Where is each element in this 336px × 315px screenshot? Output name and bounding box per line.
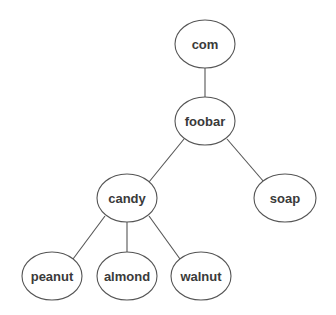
- node-walnut-label: walnut: [179, 269, 222, 284]
- nodes: com foobar candy soap peanut almond waln…: [22, 20, 316, 300]
- node-foobar-label: foobar: [185, 114, 225, 129]
- node-com[interactable]: com: [175, 20, 235, 68]
- edge-foobar-soap: [227, 139, 264, 182]
- node-soap-label: soap: [270, 191, 300, 206]
- tree-diagram: com foobar candy soap peanut almond waln…: [0, 0, 336, 315]
- node-soap[interactable]: soap: [254, 174, 316, 222]
- node-foobar[interactable]: foobar: [175, 97, 235, 145]
- node-candy-label: candy: [108, 191, 146, 206]
- edge-candy-peanut: [73, 216, 105, 259]
- edge-foobar-candy: [149, 139, 184, 182]
- edge-candy-walnut: [149, 216, 180, 259]
- node-candy[interactable]: candy: [97, 174, 157, 222]
- node-com-label: com: [192, 37, 219, 52]
- node-peanut[interactable]: peanut: [22, 252, 82, 300]
- edges: [73, 68, 264, 259]
- node-peanut-label: peanut: [31, 269, 74, 284]
- node-almond-label: almond: [104, 269, 150, 284]
- node-almond[interactable]: almond: [97, 252, 157, 300]
- node-walnut[interactable]: walnut: [171, 252, 231, 300]
